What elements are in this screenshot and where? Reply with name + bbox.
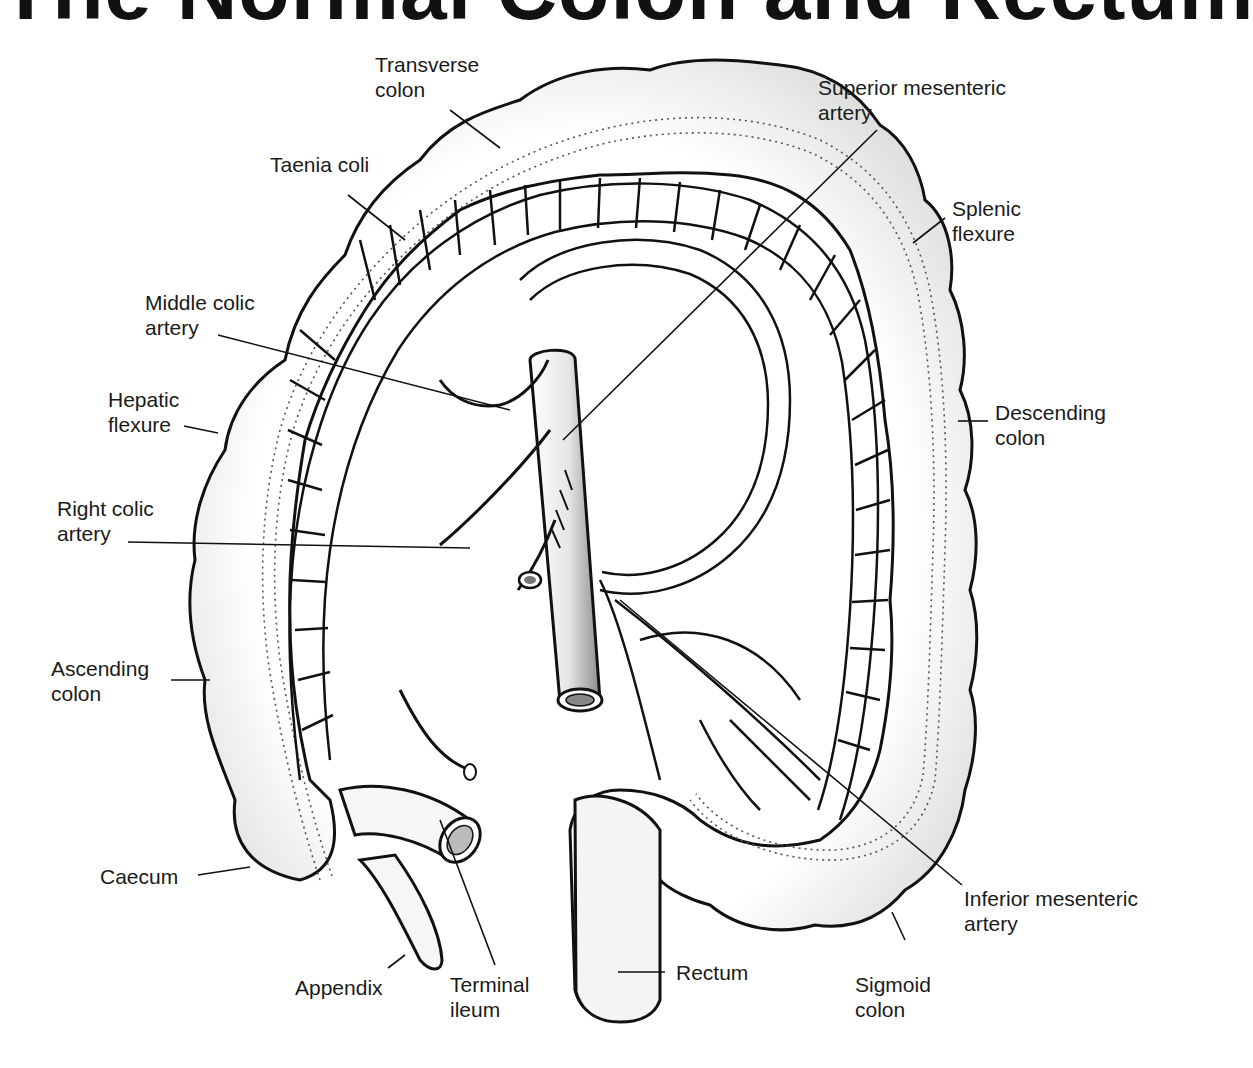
label-transverse-colon: Transverse colon <box>375 52 479 102</box>
terminal-ileum-shape <box>340 786 489 870</box>
label-superior-mesenteric-artery: Superior mesenteric artery <box>818 75 1006 125</box>
label-hepatic-flexure: Hepatic flexure <box>108 387 179 437</box>
label-middle-colic-artery: Middle colic artery <box>145 290 255 340</box>
label-right-colic-artery: Right colic artery <box>57 496 154 546</box>
label-appendix: Appendix <box>295 975 383 1000</box>
superior-mesenteric-artery-trunk <box>440 350 602 711</box>
label-sigmoid-colon: Sigmoid colon <box>855 972 931 1022</box>
label-inferior-mesenteric-artery: Inferior mesenteric artery <box>964 886 1138 936</box>
rectum-shape <box>575 796 660 1022</box>
label-terminal-ileum: Terminal ileum <box>450 972 529 1022</box>
label-caecum: Caecum <box>100 864 178 889</box>
label-taenia-coli: Taenia coli <box>270 152 369 177</box>
appendix-shape <box>360 855 442 969</box>
inferior-mesenteric-artery-branches <box>600 580 820 810</box>
label-ascending-colon: Ascending colon <box>51 656 149 706</box>
label-rectum: Rectum <box>676 960 748 985</box>
label-splenic-flexure: Splenic flexure <box>952 196 1021 246</box>
label-descending-colon: Descending colon <box>995 400 1106 450</box>
